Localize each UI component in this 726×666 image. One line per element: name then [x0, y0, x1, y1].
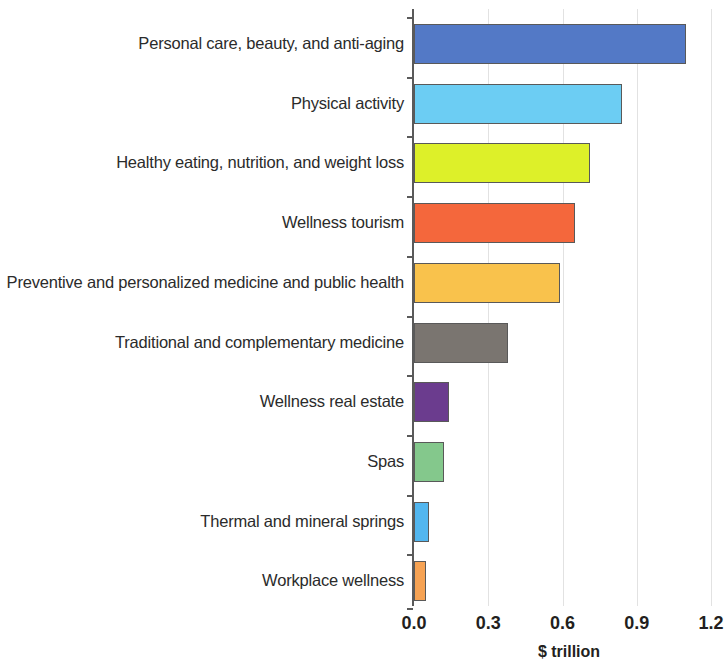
- category-label: Wellness real estate: [0, 393, 404, 410]
- category-label: Healthy eating, nutrition, and weight lo…: [0, 154, 404, 171]
- x-tick-label: 0.9: [624, 612, 649, 634]
- category-label: Wellness tourism: [0, 214, 404, 231]
- category-label: Traditional and complementary medicine: [0, 334, 404, 351]
- y-axis-tick: [407, 375, 413, 377]
- bar: [414, 502, 429, 542]
- bar: [414, 143, 590, 183]
- y-axis-tick: [407, 196, 413, 198]
- plot-area: [412, 9, 726, 606]
- x-axis-tick-labels: 0.00.30.60.91.2: [412, 612, 726, 638]
- bar: [414, 323, 508, 363]
- y-axis-tick: [407, 316, 413, 318]
- gridline-0.9: [637, 9, 638, 606]
- y-axis-tick: [407, 17, 413, 19]
- y-axis-tick: [407, 495, 413, 497]
- category-label: Thermal and mineral springs: [0, 513, 404, 530]
- bar: [414, 24, 686, 64]
- category-label: Personal care, beauty, and anti-aging: [0, 35, 404, 52]
- category-label-column: Personal care, beauty, and anti-agingPhy…: [0, 9, 404, 606]
- x-tick-label: 0.6: [550, 612, 575, 634]
- y-axis-tick: [407, 136, 413, 138]
- category-label: Physical activity: [0, 95, 404, 112]
- y-axis-tick: [407, 554, 413, 556]
- horizontal-bar-chart: Personal care, beauty, and anti-agingPhy…: [0, 0, 726, 666]
- bar: [414, 203, 575, 243]
- x-tick-label: 1.2: [698, 612, 723, 634]
- bar: [414, 442, 444, 482]
- y-axis-tick: [407, 256, 413, 258]
- y-axis-tick: [407, 77, 413, 79]
- category-label: Preventive and personalized medicine and…: [0, 274, 404, 291]
- category-label: Workplace wellness: [0, 572, 404, 589]
- bar: [414, 561, 426, 601]
- gridline-1.2: [711, 9, 712, 606]
- y-axis-tick-end: [407, 608, 413, 610]
- y-axis-tick: [407, 435, 413, 437]
- category-label: Spas: [0, 453, 404, 470]
- bar: [414, 382, 449, 422]
- x-tick-label: 0.0: [401, 612, 426, 634]
- x-axis-title: $ trillion: [412, 642, 726, 661]
- bar: [414, 84, 622, 124]
- bar: [414, 263, 560, 303]
- x-tick-label: 0.3: [476, 612, 501, 634]
